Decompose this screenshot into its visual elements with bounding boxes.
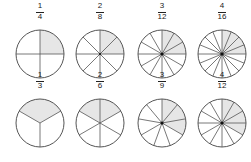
fraction-circle	[10, 93, 70, 149]
numerator: 4	[192, 71, 251, 79]
numerator: 3	[132, 71, 192, 79]
numerator: 2	[70, 71, 130, 79]
numerator: 3	[132, 2, 192, 10]
denominator: 6	[70, 82, 130, 90]
numerator: 2	[70, 2, 130, 10]
denominator: 4	[10, 13, 70, 21]
fraction-figure: 39	[132, 71, 192, 151]
numerator: 1	[10, 2, 70, 10]
fraction-figure: 13	[10, 71, 70, 151]
fraction-figure: 26	[70, 71, 130, 151]
fraction-circle	[132, 93, 192, 149]
fraction-figure: 412	[192, 71, 251, 151]
fraction-circle	[192, 93, 251, 149]
denominator: 8	[70, 13, 130, 21]
denominator: 3	[10, 82, 70, 90]
denominator: 9	[132, 82, 192, 90]
numerator: 4	[192, 2, 251, 10]
shaded-region	[19, 99, 61, 123]
denominator: 12	[132, 13, 192, 21]
fraction-circle	[70, 93, 130, 149]
denominator: 12	[192, 82, 251, 90]
numerator: 1	[10, 71, 70, 79]
denominator: 16	[192, 13, 251, 21]
